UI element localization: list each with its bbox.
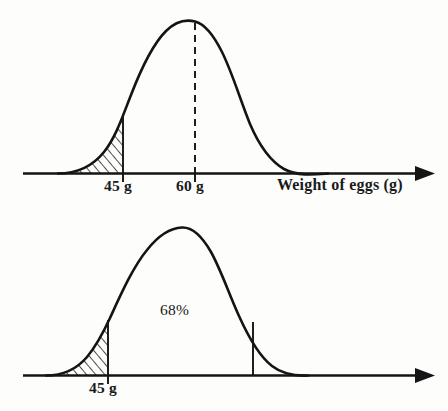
top-x-axis-label: Weight of eggs (g)	[277, 176, 403, 194]
top-tick-label-45g: 45 g	[104, 177, 132, 195]
bottom-chart-group	[23, 227, 435, 385]
top-normal-curve	[58, 21, 328, 175]
bottom-axis-arrow-icon	[415, 368, 435, 383]
top-tick-label-60g: 60 g	[176, 177, 204, 195]
figure-container: 45 g 60 g Weight of eggs (g) 68% 45 g	[0, 0, 448, 411]
distribution-figure-svg	[0, 0, 448, 411]
top-axis-arrow-icon	[415, 166, 435, 181]
bottom-region-percent-label: 68%	[160, 301, 189, 319]
bottom-tick-label-45g: 45 g	[89, 379, 117, 397]
bottom-hatched-region	[28, 305, 128, 385]
top-chart-group	[23, 21, 435, 182]
